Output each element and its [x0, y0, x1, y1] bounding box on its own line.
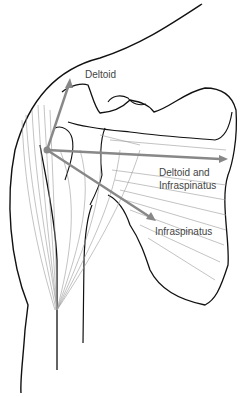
- label-deltoid-and-infraspinatus-line2: Infraspinatus: [159, 180, 216, 192]
- scapular-spine-outline: [62, 84, 236, 305]
- center-of-rotation: [44, 147, 51, 154]
- deltoid-infraspinatus-vector: [47, 150, 220, 159]
- label-deltoid-and-infraspinatus-line1: Deltoid and: [159, 167, 210, 179]
- spine-lower-edge: [68, 112, 232, 140]
- scapula-inner: [90, 128, 105, 205]
- label-deltoid: Deltoid: [85, 69, 116, 81]
- deltoid-arrowhead: [65, 78, 73, 88]
- humerus-right: [83, 205, 92, 343]
- glenoid-outline: [55, 127, 73, 180]
- shoulder-diagram: Deltoid Deltoid and Infraspinatus Infras…: [0, 0, 244, 397]
- force-vectors: [44, 78, 229, 221]
- shoulder-illustration: [0, 0, 244, 397]
- deltoid-infraspinatus-arrowhead: [219, 155, 228, 163]
- skin-outline: [10, 4, 202, 393]
- label-infraspinatus: Infraspinatus: [155, 226, 212, 238]
